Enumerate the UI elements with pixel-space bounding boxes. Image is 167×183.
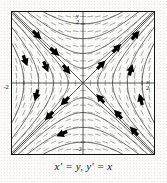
field-dash bbox=[37, 118, 40, 122]
flow-arrow bbox=[33, 89, 41, 101]
field-dash bbox=[134, 59, 136, 64]
field-dash bbox=[22, 125, 25, 129]
field-dash bbox=[149, 73, 150, 78]
field-dash bbox=[96, 52, 100, 54]
field-dash bbox=[59, 52, 63, 55]
field-dash bbox=[52, 103, 55, 107]
field-dash bbox=[149, 95, 150, 100]
field-dash bbox=[103, 38, 107, 40]
field-dash bbox=[52, 96, 54, 100]
field-dash bbox=[30, 59, 32, 64]
field-dash bbox=[125, 141, 129, 144]
field-dash bbox=[141, 110, 143, 114]
field-dash bbox=[31, 95, 32, 100]
field-dash bbox=[52, 66, 54, 70]
field-dash bbox=[95, 31, 100, 32]
field-dash bbox=[103, 16, 108, 18]
field-dash bbox=[125, 22, 129, 25]
field-dash bbox=[111, 66, 113, 70]
flow-arrow bbox=[42, 61, 49, 72]
field-dash bbox=[16, 58, 18, 63]
field-dash bbox=[141, 51, 143, 55]
field-dash bbox=[45, 95, 47, 100]
field-dash bbox=[66, 127, 71, 129]
field-dash bbox=[125, 15, 129, 18]
field-dash bbox=[118, 30, 122, 33]
field-dash bbox=[148, 125, 151, 129]
field-dash bbox=[118, 148, 122, 150]
field-dash bbox=[141, 125, 144, 129]
field-dash bbox=[23, 66, 24, 71]
field-dash bbox=[103, 52, 107, 55]
field-dash bbox=[111, 118, 115, 121]
field-dash bbox=[118, 37, 122, 40]
phase-portrait-figure: y 2 x 2 -2 -2 x′ = y, y′ = x bbox=[0, 0, 167, 183]
field-dash bbox=[38, 103, 40, 107]
field-dash bbox=[119, 66, 121, 71]
field-dash bbox=[44, 148, 48, 150]
field-dash bbox=[15, 125, 18, 129]
field-dash bbox=[149, 66, 150, 71]
field-dash bbox=[23, 103, 25, 108]
field-dash bbox=[66, 119, 71, 121]
field-dash bbox=[44, 126, 48, 129]
field-dash bbox=[31, 66, 32, 71]
field-dash bbox=[38, 66, 40, 71]
field-dash bbox=[51, 23, 55, 25]
field-dash bbox=[59, 38, 63, 40]
field-dash bbox=[133, 118, 136, 122]
field-dash bbox=[15, 37, 18, 41]
field-dash bbox=[88, 149, 93, 150]
field-dash bbox=[37, 148, 41, 151]
field-dash bbox=[88, 119, 93, 120]
field-dash bbox=[88, 46, 93, 47]
field-dash bbox=[59, 111, 63, 114]
field-dash bbox=[95, 119, 100, 121]
field-dash bbox=[30, 44, 33, 48]
field-dash bbox=[37, 44, 40, 48]
field-dash bbox=[60, 88, 62, 93]
field-dash bbox=[16, 88, 17, 93]
field-dash bbox=[37, 141, 41, 144]
x-axis-tick-minus-2: -2 bbox=[4, 84, 9, 90]
field-dash bbox=[88, 16, 93, 17]
plot-frame bbox=[11, 11, 155, 155]
field-dash bbox=[110, 141, 114, 143]
x-axis-tick-2: 2 bbox=[146, 85, 149, 91]
field-dash bbox=[88, 60, 93, 62]
field-dash bbox=[66, 23, 71, 24]
field-dash bbox=[59, 30, 64, 32]
field-dash bbox=[59, 126, 63, 128]
field-dash bbox=[134, 95, 135, 100]
field-dash bbox=[37, 15, 41, 18]
field-dash bbox=[60, 73, 62, 78]
field-dash bbox=[73, 31, 78, 32]
field-dash bbox=[103, 111, 107, 114]
y-axis-tick-2: 2 bbox=[76, 19, 79, 25]
flow-arrow bbox=[56, 130, 68, 137]
field-dash bbox=[66, 52, 70, 54]
field-dash bbox=[104, 73, 106, 78]
field-dash bbox=[104, 88, 106, 93]
field-dash bbox=[148, 44, 150, 48]
field-dash bbox=[103, 134, 108, 136]
field-dash bbox=[46, 73, 47, 78]
field-dash bbox=[149, 58, 151, 63]
field-dash bbox=[66, 142, 71, 143]
field-dash bbox=[66, 45, 71, 47]
field-dash bbox=[95, 127, 100, 129]
field-dash bbox=[126, 103, 128, 107]
field-dash bbox=[118, 133, 122, 136]
field-dash bbox=[149, 103, 151, 108]
field-dash bbox=[16, 103, 18, 108]
field-dash bbox=[95, 134, 100, 135]
field-dash bbox=[58, 23, 63, 25]
field-dash bbox=[111, 59, 114, 63]
field-dash bbox=[149, 88, 150, 93]
field-dash bbox=[119, 95, 121, 100]
field-dash bbox=[126, 59, 128, 63]
field-dash bbox=[141, 58, 143, 63]
field-dash bbox=[119, 73, 120, 78]
field-dash bbox=[44, 37, 48, 40]
field-dash bbox=[23, 95, 24, 100]
